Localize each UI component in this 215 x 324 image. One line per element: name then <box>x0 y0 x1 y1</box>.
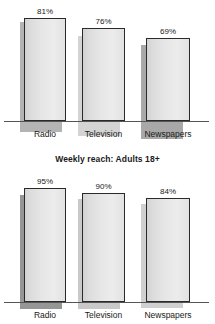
chart-panel-top: 81% 76% 69% Radio Television Newspapers <box>0 0 215 150</box>
bar-value-radio: 81% <box>24 7 66 16</box>
axis-line-top <box>4 121 209 122</box>
plot-area-top: 81% 76% 69% Radio Television Newspapers <box>0 0 215 150</box>
bar-newspapers[interactable] <box>146 38 190 121</box>
category-label-television: Television <box>77 129 130 139</box>
plot-area-bottom: 95% 90% 84% Radio Television Newspapers <box>0 152 215 324</box>
bar-television[interactable] <box>82 193 125 302</box>
category-label-newspapers: Newspapers <box>139 310 197 320</box>
bar-value-newspapers: 69% <box>146 27 190 36</box>
category-label-radio: Radio <box>20 129 70 139</box>
bar-value-television: 90% <box>82 182 125 191</box>
category-label-newspapers: Newspapers <box>139 129 197 139</box>
category-label-radio: Radio <box>20 310 70 320</box>
bar-value-radio: 95% <box>24 177 66 186</box>
bar-television[interactable] <box>82 28 125 121</box>
bar-newspapers[interactable] <box>146 198 190 302</box>
category-label-television: Television <box>77 310 130 320</box>
bar-radio[interactable] <box>24 18 66 121</box>
bar-value-newspapers: 84% <box>146 187 190 196</box>
bar-radio[interactable] <box>24 188 66 302</box>
bar-value-television: 76% <box>82 17 125 26</box>
axis-line-bottom <box>4 302 209 303</box>
chart-panel-bottom: Weekly reach: Adults 18+ 95% 90% 84% Rad… <box>0 152 215 324</box>
